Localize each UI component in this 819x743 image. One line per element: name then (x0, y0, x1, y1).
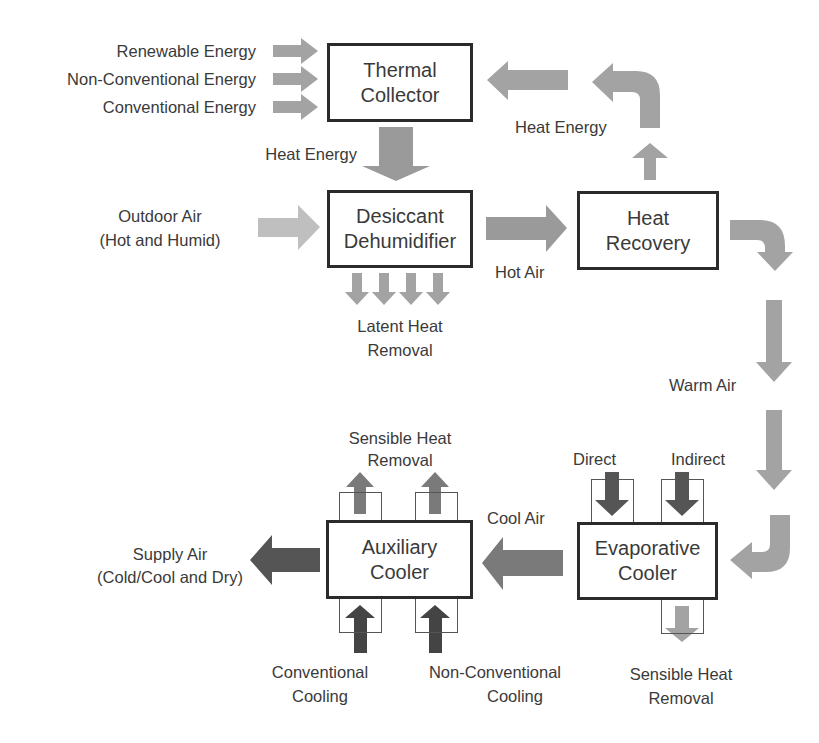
latent-heat-arrows (345, 273, 450, 305)
indirect-label: Indirect (671, 449, 725, 470)
non-conventional-energy-arrow-icon (273, 66, 318, 92)
hot-air-label: Hot Air (495, 262, 545, 283)
evaporative-line2: Cooler (618, 561, 677, 586)
evap-sensible-heat-label-1: Sensible Heat (606, 664, 756, 685)
aux-top-right-frame (415, 492, 458, 522)
auxiliary-line1: Auxiliary (362, 535, 438, 560)
auxiliary-line2: Cooler (370, 560, 429, 585)
aux-sensible-heat-label-2: Removal (325, 450, 475, 471)
heat-energy-down-arrow-icon (362, 127, 430, 181)
indirect-inlet-frame (661, 479, 704, 524)
heat-recovery-line2: Recovery (606, 231, 690, 256)
cool-air-arrow-icon (482, 537, 563, 590)
non-conventional-energy-label: Non-Conventional Energy (67, 69, 256, 90)
supply-air-label-1: Supply Air (100, 544, 240, 565)
aux-bottom-left-frame (339, 596, 382, 633)
aux-top-left-frame (339, 492, 382, 522)
outdoor-air-arrow-icon (258, 205, 320, 250)
cool-air-label: Cool Air (487, 508, 545, 529)
conventional-cooling-label-2: Cooling (250, 686, 390, 707)
hot-air-arrow-icon (486, 205, 567, 252)
thermal-collector-line1: Thermal (363, 58, 436, 83)
direct-inlet-frame (591, 479, 634, 524)
evaporative-cooler-box: Evaporative Cooler (577, 522, 718, 600)
thermal-collector-line2: Collector (361, 83, 440, 108)
latent-heat-arrow-icon (345, 273, 369, 305)
evaporative-entry-curved-arrow-icon (730, 515, 790, 579)
evap-outlet-frame (661, 597, 704, 634)
conventional-energy-arrow-icon (273, 94, 318, 120)
energy-input-arrows (273, 38, 318, 120)
supply-air-label-2: (Cold/Cool and Dry) (70, 567, 270, 588)
latent-heat-arrow-icon (372, 273, 396, 305)
warm-air-down-arrow-2-icon (756, 410, 792, 490)
evap-sensible-heat-label-2: Removal (606, 688, 756, 709)
conventional-energy-label: Conventional Energy (103, 97, 256, 118)
aux-sensible-heat-label-1: Sensible Heat (325, 428, 475, 449)
heat-energy-left-arrow-icon (487, 61, 568, 100)
latent-heat-label-2: Removal (340, 340, 460, 361)
latent-heat-arrow-icon (399, 273, 423, 305)
evaporative-line1: Evaporative (595, 536, 701, 561)
renewable-energy-label: Renewable Energy (117, 41, 256, 62)
direct-label: Direct (573, 449, 616, 470)
latent-heat-arrow-icon (426, 273, 450, 305)
heat-energy-return-label: Heat Energy (515, 117, 607, 138)
outdoor-air-label-1: Outdoor Air (100, 206, 220, 227)
warm-air-label: Warm Air (669, 375, 736, 396)
conventional-cooling-label-1: Conventional (250, 662, 390, 683)
heat-energy-up-arrow-icon (632, 143, 668, 180)
aux-bottom-right-frame (415, 596, 458, 633)
non-conventional-cooling-label-2: Cooling (430, 686, 600, 707)
heat-energy-down-label: Heat Energy (265, 144, 357, 165)
desiccant-line2: Dehumidifier (344, 229, 456, 254)
thermal-collector-box: Thermal Collector (327, 43, 473, 122)
auxiliary-cooler-box: Auxiliary Cooler (326, 520, 473, 599)
renewable-energy-arrow-icon (273, 38, 318, 64)
heat-recovery-exit-curved-arrow-icon (730, 220, 793, 271)
desiccant-dehumidifier-box: Desiccant Dehumidifier (327, 190, 473, 268)
heat-recovery-line1: Heat (627, 206, 669, 231)
outdoor-air-label-2: (Hot and Humid) (90, 230, 230, 251)
non-conventional-cooling-label-1: Non-Conventional (410, 662, 580, 683)
warm-air-down-arrow-1-icon (756, 300, 792, 382)
latent-heat-label-1: Latent Heat (340, 316, 460, 337)
heat-recovery-box: Heat Recovery (577, 191, 719, 270)
desiccant-line1: Desiccant (356, 204, 444, 229)
